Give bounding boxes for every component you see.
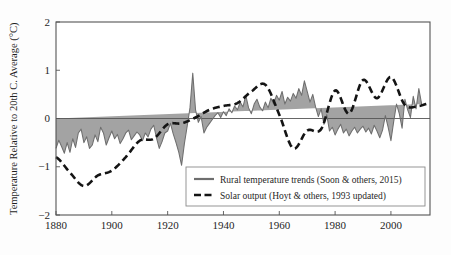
x-tick-label: 1900 (101, 219, 124, 231)
y-tick-label: 2 (45, 16, 51, 28)
y-axis-label: Temperature Relative to 20th C. Average … (8, 22, 20, 215)
legend-label-solar: Solar output (Hoyt & others, 1993 update… (220, 191, 386, 202)
y-tick-label: −1 (38, 160, 50, 172)
x-tick-label: 1940 (212, 219, 235, 231)
x-tick-label: 1880 (45, 219, 68, 231)
y-tick-label: 1 (45, 64, 51, 76)
chart-legend: Rural temperature trends (Soon & others,… (186, 167, 425, 206)
legend-label-rural: Rural temperature trends (Soon & others,… (220, 175, 402, 186)
x-tick-label: 1920 (157, 219, 180, 231)
x-tick-label: 2000 (380, 219, 403, 231)
figure-container: 210−1−2 1880190019201940196019802000 Tem… (0, 0, 451, 255)
x-tick-label: 1960 (268, 219, 291, 231)
climate-solar-line-chart: 210−1−2 1880190019201940196019802000 Tem… (0, 0, 451, 255)
y-tick-label: 0 (45, 112, 51, 124)
x-tick-label: 1980 (324, 219, 347, 231)
